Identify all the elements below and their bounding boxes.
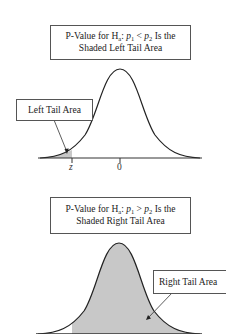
zero-tick-label: 0 bbox=[117, 162, 122, 172]
left-tail-title-line2: Shaded Left Tail Area bbox=[51, 43, 190, 55]
z-tick-label: z bbox=[69, 162, 73, 172]
operator-greater-than: > bbox=[134, 204, 144, 214]
left-tail-callout: Left Tail Area bbox=[16, 99, 93, 121]
left-callout-arrow bbox=[54, 120, 67, 152]
left-tail-title-line1: P-Value for Ha: p1 < p2 Is the bbox=[51, 31, 190, 43]
right-tail-callout: Right Tail Area bbox=[153, 270, 226, 294]
right-tail-title-line1: P-Value for Ha: p1 > p2 Is the bbox=[51, 204, 190, 216]
title-suffix: Is the bbox=[152, 31, 175, 41]
title-suffix: Is the bbox=[152, 204, 175, 214]
right-tail-title-box: P-Value for Ha: p1 > p2 Is the Shaded Ri… bbox=[50, 197, 191, 234]
title-prefix: P-Value for H bbox=[66, 204, 119, 214]
title-prefix: P-Value for H bbox=[66, 31, 119, 41]
operator-less-than: < bbox=[134, 31, 144, 41]
right-tail-title-line2: Shaded Right Tail Area bbox=[51, 216, 190, 228]
left-tail-title-box: P-Value for Ha: p1 < p2 Is the Shaded Le… bbox=[50, 25, 191, 60]
